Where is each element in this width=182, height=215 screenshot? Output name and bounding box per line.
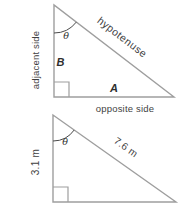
horizontal-leg-label: A (109, 82, 118, 94)
triangles-figure: θ B A adjacent side hypotenuse opposite … (0, 0, 182, 215)
right-angle-marker (53, 187, 68, 202)
opposite-side-label: opposite side (96, 103, 155, 114)
adjacent-side-label: adjacent side (30, 31, 41, 90)
hypotenuse-measurement: 7.6 m (112, 135, 140, 159)
labeled-triangle: θ B A adjacent side hypotenuse opposite … (30, 5, 174, 114)
angle-theta-label: θ (62, 136, 68, 147)
triangle-outline (53, 115, 176, 202)
right-angle-marker (54, 82, 69, 97)
trigonometry-diagram: θ B A adjacent side hypotenuse opposite … (0, 0, 182, 215)
vertical-leg-label: B (57, 56, 65, 68)
hypotenuse-label: hypotenuse (95, 14, 149, 60)
vertical-side-measurement: 3.1 m (30, 149, 41, 176)
angle-theta-label: θ (63, 30, 69, 41)
measured-triangle: θ 3.1 m 7.6 m (30, 115, 176, 202)
